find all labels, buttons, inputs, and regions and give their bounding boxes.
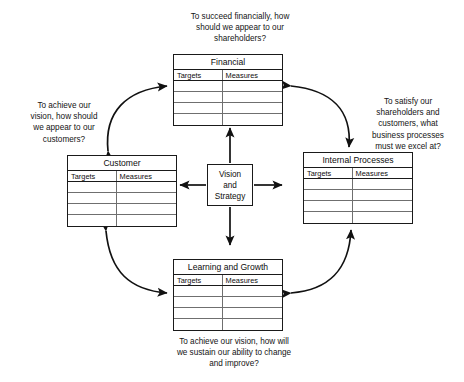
cell-measure[interactable] [223, 286, 282, 296]
arrow-learning-internal [291, 230, 351, 293]
column-header-measures: Measures [223, 275, 282, 285]
arrow-customer-learning [106, 231, 167, 293]
table-header-row: Targets Measures [174, 275, 282, 286]
perspective-title-financial: Financial [174, 55, 282, 70]
table-row[interactable] [304, 201, 412, 212]
caption-learning-and-growth: To achieve our vision, how will we susta… [148, 336, 320, 370]
column-header-targets: Targets [174, 275, 223, 285]
caption-customer: To achieve our vision, how should we app… [8, 100, 120, 145]
table-header-row: Targets Measures [174, 70, 282, 81]
cell-measure[interactable] [223, 308, 282, 318]
column-header-measures: Measures [117, 171, 176, 181]
table-row[interactable] [68, 215, 176, 226]
perspective-box-customer: Customer Targets Measures [67, 155, 177, 227]
perspective-box-financial: Financial Targets Measures [173, 54, 283, 126]
cell-measure[interactable] [223, 297, 282, 307]
cell-target[interactable] [174, 286, 223, 296]
perspective-box-learning-and-growth: Learning and Growth Targets Measures [173, 259, 283, 331]
column-header-targets: Targets [304, 168, 353, 178]
perspective-table-financial: Targets Measures [174, 70, 282, 125]
table-row[interactable] [174, 103, 282, 114]
cell-target[interactable] [304, 179, 353, 189]
cell-target[interactable] [174, 81, 223, 91]
cell-target[interactable] [174, 92, 223, 102]
column-header-measures: Measures [223, 70, 282, 80]
vision-and-strategy-box: Vision and Strategy [207, 164, 253, 206]
table-row[interactable] [174, 297, 282, 308]
table-row[interactable] [304, 190, 412, 201]
perspective-box-internal-processes: Internal Processes Targets Measures [303, 152, 413, 224]
arrow-financial-internal [291, 86, 349, 147]
cell-target[interactable] [174, 103, 223, 113]
cell-measure[interactable] [223, 114, 282, 125]
cell-measure[interactable] [117, 193, 176, 203]
cell-target[interactable] [304, 201, 353, 211]
cell-target[interactable] [304, 212, 353, 223]
cell-target[interactable] [174, 308, 223, 318]
cell-target[interactable] [68, 215, 117, 226]
cell-measure[interactable] [223, 103, 282, 113]
table-row[interactable] [68, 204, 176, 215]
cell-measure[interactable] [223, 92, 282, 102]
perspective-title-learning-and-growth: Learning and Growth [174, 260, 282, 275]
cell-measure[interactable] [223, 319, 282, 330]
table-row[interactable] [304, 179, 412, 190]
cell-target[interactable] [68, 182, 117, 192]
cell-measure[interactable] [223, 81, 282, 91]
column-header-measures: Measures [353, 168, 412, 178]
table-row[interactable] [174, 286, 282, 297]
column-header-targets: Targets [68, 171, 117, 181]
table-header-row: Targets Measures [304, 168, 412, 179]
cell-target[interactable] [174, 319, 223, 330]
cell-measure[interactable] [353, 212, 412, 223]
cell-measure[interactable] [353, 201, 412, 211]
table-row[interactable] [174, 319, 282, 330]
cell-target[interactable] [174, 297, 223, 307]
perspective-table-internal-processes: Targets Measures [304, 168, 412, 223]
perspective-table-customer: Targets Measures [68, 171, 176, 226]
table-row[interactable] [174, 81, 282, 92]
table-row[interactable] [174, 92, 282, 103]
table-header-row: Targets Measures [68, 171, 176, 182]
cell-target[interactable] [174, 114, 223, 125]
table-row[interactable] [68, 182, 176, 193]
table-row[interactable] [174, 308, 282, 319]
cell-target[interactable] [68, 193, 117, 203]
caption-internal-processes: To satisfy our shareholders and customer… [352, 96, 464, 152]
perspective-title-customer: Customer [68, 156, 176, 171]
balanced-scorecard-diagram: To succeed financially, how should we ap… [0, 0, 464, 382]
column-header-targets: Targets [174, 70, 223, 80]
cell-target[interactable] [304, 190, 353, 200]
cell-target[interactable] [68, 204, 117, 214]
perspective-title-internal-processes: Internal Processes [304, 153, 412, 168]
perspective-table-learning-and-growth: Targets Measures [174, 275, 282, 330]
table-row[interactable] [174, 114, 282, 125]
cell-measure[interactable] [117, 204, 176, 214]
cell-measure[interactable] [353, 179, 412, 189]
table-row[interactable] [304, 212, 412, 223]
table-row[interactable] [68, 193, 176, 204]
cell-measure[interactable] [117, 215, 176, 226]
caption-financial: To succeed financially, how should we ap… [158, 11, 322, 45]
cell-measure[interactable] [353, 190, 412, 200]
cell-measure[interactable] [117, 182, 176, 192]
